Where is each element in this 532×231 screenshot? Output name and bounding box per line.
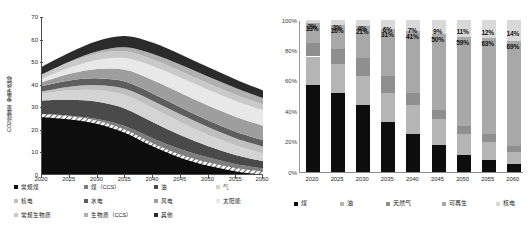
right-x-tick: 2060 (506, 176, 519, 182)
right-y-tick: 20% (268, 139, 297, 145)
bar-segment (482, 160, 496, 172)
legend-label: 可再生 (449, 200, 467, 207)
bar-segment (457, 155, 471, 172)
legend-item-solar[interactable]: 太阳能 (216, 198, 241, 204)
legend-item-biomass-ccs[interactable]: 生物质（CCS） (84, 212, 132, 218)
right-x-tick: 2050 (456, 176, 469, 182)
bar-segment (482, 38, 496, 134)
left-stacked-area-svg (42, 17, 263, 174)
renewable-share-label: 41% (406, 33, 419, 40)
bar-segment (381, 122, 395, 172)
legend-swatch-icon (386, 202, 390, 206)
legend-swatch-icon (84, 199, 88, 203)
legend-item-renewables[interactable]: 可再生 (442, 200, 467, 207)
left-x-tick: 2040 (146, 176, 159, 182)
legend-label: 其他 (161, 212, 173, 218)
legend-label: 油 (347, 200, 353, 207)
bar-segment (331, 93, 345, 172)
renewable-share-label: 16% (331, 27, 344, 34)
renewable-share-label: 31% (381, 31, 394, 38)
legend-item-other[interactable]: 其他 (154, 212, 173, 218)
bar-segment (306, 43, 320, 57)
left-x-tick: 2030 (90, 176, 103, 182)
legend-item-wind[interactable]: 风电 (154, 198, 173, 204)
legend-item-gas[interactable]: 气 (216, 184, 229, 190)
bar-segment (507, 164, 521, 172)
legend-swatch-icon (14, 185, 18, 189)
legend-swatch-icon (14, 213, 18, 217)
legend-label: 天然气 (393, 200, 411, 207)
bar-segment (432, 110, 446, 119)
right-x-axis-ticks: 2020 2025 2030 2035 2040 2045 2050 2055 … (299, 176, 524, 186)
bar-segment (406, 31, 420, 93)
stacked-bar[interactable] (381, 20, 395, 172)
legend-swatch-icon (294, 202, 298, 206)
left-y-tick: 20 (14, 127, 38, 133)
legend-label: 气 (223, 184, 229, 190)
left-y-axis-ticks: 70 60 50 40 30 20 10 0 (14, 12, 38, 178)
bar-segment (406, 105, 420, 134)
legend-label: 水电 (91, 198, 103, 204)
legend-item-coal[interactable]: 煤 (294, 200, 307, 207)
bar-segment (381, 93, 395, 122)
bar-segment (381, 76, 395, 93)
bar-segment (482, 142, 496, 160)
legend-item-natural-gas[interactable]: 天然气 (386, 200, 411, 207)
stacked-bar[interactable] (356, 20, 370, 172)
right-x-tick: 2045 (431, 176, 444, 182)
right-x-tick: 2025 (331, 176, 344, 182)
renewable-share-label: 21% (356, 28, 369, 35)
bar-segment (432, 119, 446, 145)
legend-item-nuclear[interactable]: 核电 (496, 200, 515, 207)
bar-segment (507, 41, 521, 146)
bar-segment (432, 34, 446, 110)
right-y-tick: 100% (268, 18, 297, 24)
left-x-tick: 2020 (35, 176, 48, 182)
renewable-share-label: 69% (506, 43, 519, 50)
bar-segment (406, 134, 420, 172)
legend-item-conventional-coal[interactable]: 常规煤 (14, 184, 39, 190)
legend-item-coal-ccs[interactable]: 煤（CCS） (84, 184, 120, 190)
legend-swatch-icon (340, 202, 344, 206)
legend-label: 油 (161, 184, 167, 190)
left-chart-panel: CO2排放量（发电+终端） 70 60 50 40 30 20 10 0 (0, 0, 266, 231)
nuclear-share-label: 14% (506, 30, 519, 37)
stacked-bar[interactable] (331, 20, 345, 172)
legend-label: 生物质（CCS） (91, 212, 133, 218)
left-x-tick: 2045 (173, 176, 186, 182)
legend-item-oil[interactable]: 油 (154, 184, 167, 190)
right-x-tick: 2055 (481, 176, 494, 182)
bar-segment (356, 105, 370, 172)
right-y-tick: 80% (268, 48, 297, 54)
left-x-tick: 2050 (201, 176, 214, 182)
legend-label: 煤（CCS） (91, 184, 121, 190)
nuclear-share-label: 9% (433, 28, 442, 35)
stacked-bar[interactable] (406, 20, 420, 172)
legend-swatch-icon (154, 199, 158, 203)
stacked-bar[interactable] (432, 20, 446, 172)
left-y-tick: 50 (14, 59, 38, 65)
legend-label: 太阳能 (223, 198, 241, 204)
legend-item-conventional-biomass[interactable]: 常规生物质 (14, 212, 51, 218)
legend-item-oil[interactable]: 油 (340, 200, 353, 207)
legend-label: 常规生物质 (21, 212, 51, 218)
right-y-tick: 0% (268, 170, 297, 176)
legend-label: 常规煤 (21, 184, 39, 190)
renewable-share-label: 50% (431, 36, 444, 43)
right-y-axis-ticks: 100% 80% 60% 40% 20% 0% (268, 16, 297, 180)
bar-segment (432, 145, 446, 172)
legend-label: 煤 (301, 200, 307, 207)
right-y-tick: 60% (268, 78, 297, 84)
right-x-tick: 2020 (306, 176, 319, 182)
left-x-tick: 2055 (229, 176, 242, 182)
bar-segment (482, 134, 496, 142)
legend-swatch-icon (14, 199, 18, 203)
bar-segment (507, 146, 521, 152)
bar-segment (331, 64, 345, 93)
legend-swatch-icon (154, 213, 158, 217)
legend-item-nuclear[interactable]: 核电 (14, 198, 33, 204)
legend-item-hydro[interactable]: 水电 (84, 198, 103, 204)
left-y-tick: 10 (14, 149, 38, 155)
legend-swatch-icon (216, 199, 220, 203)
stacked-bar[interactable] (306, 20, 320, 172)
